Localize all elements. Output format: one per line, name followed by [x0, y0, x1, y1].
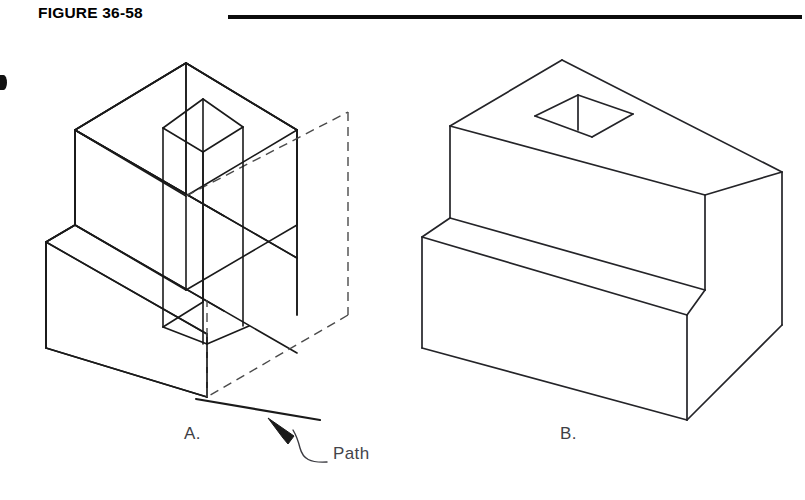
path-annotation-label: Path — [333, 444, 370, 464]
caption-view-a: A. — [184, 424, 201, 444]
caption-view-b: B. — [560, 424, 577, 444]
arrowhead-icon — [268, 418, 294, 444]
leader-curve — [293, 430, 327, 462]
path-leader-annotation — [0, 0, 805, 500]
figure-page: FIGURE 36-58 — [0, 0, 805, 500]
